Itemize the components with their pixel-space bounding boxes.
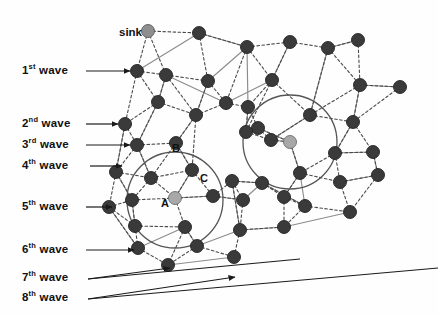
- sensor-node[interactable]: [234, 224, 247, 237]
- sensor-node[interactable]: [334, 176, 347, 189]
- sensor-node[interactable]: [119, 118, 132, 131]
- highlighted-node[interactable]: [169, 192, 182, 205]
- sensor-node[interactable]: [131, 139, 144, 152]
- dashed-edge-group: [109, 31, 400, 265]
- sensor-node[interactable]: [299, 200, 312, 213]
- dashed-link: [166, 75, 196, 115]
- sensor-node[interactable]: [284, 36, 297, 49]
- wave-5-label: 5th wave: [22, 200, 68, 212]
- sensor-node[interactable]: [190, 109, 203, 122]
- sensor-node[interactable]: [372, 169, 385, 182]
- sensor-node[interactable]: [126, 194, 139, 207]
- wave-2-suffix: nd: [29, 115, 39, 124]
- dashed-link: [199, 33, 208, 81]
- wave-diagram-figure: 1st wave2nd wave3rd wave4th wave5th wave…: [0, 0, 438, 315]
- wave-7-word: wave: [36, 271, 68, 283]
- sensor-node[interactable]: [278, 221, 291, 234]
- dashed-link: [350, 175, 378, 212]
- sensor-node[interactable]: [347, 116, 360, 129]
- network-graph-canvas: [0, 0, 438, 315]
- dashed-link: [199, 33, 247, 47]
- highlighted-node[interactable]: [284, 136, 297, 149]
- sensor-node[interactable]: [352, 34, 365, 47]
- sensor-node[interactable]: [265, 134, 278, 147]
- sensor-node[interactable]: [220, 97, 233, 110]
- solid-link: [226, 80, 272, 103]
- solid-link: [208, 47, 247, 81]
- sensor-node[interactable]: [191, 240, 204, 253]
- wave-4-ordinal: 4: [22, 159, 29, 171]
- node-a-label: A: [161, 197, 169, 209]
- sensor-node[interactable]: [242, 101, 255, 114]
- sensor-node[interactable]: [160, 69, 173, 82]
- wave-7-suffix: th: [29, 269, 36, 278]
- wave-8-suffix: th: [29, 289, 36, 298]
- solid-edge-group: [109, 33, 400, 265]
- sensor-node[interactable]: [129, 220, 142, 233]
- wave-8-word: wave: [36, 291, 68, 303]
- sink-label: sink: [119, 26, 142, 38]
- wave-5-word: wave: [36, 200, 68, 212]
- dashed-link: [148, 31, 199, 33]
- sensor-node[interactable]: [193, 27, 206, 40]
- sensor-node[interactable]: [152, 96, 165, 109]
- wave-1-word: wave: [36, 64, 68, 76]
- wave-3-label: 3rd wave: [22, 138, 69, 150]
- wave-1-suffix: st: [29, 62, 36, 71]
- wave-4-label: 4th wave: [22, 159, 68, 171]
- sensor-node[interactable]: [226, 175, 239, 188]
- wave-6-label: 6th wave: [22, 243, 68, 255]
- solid-link: [247, 47, 248, 107]
- sensor-node[interactable]: [322, 42, 335, 55]
- dashed-link: [135, 226, 185, 227]
- node-c-label: C: [200, 172, 208, 184]
- wave-1-label: 1st wave: [22, 64, 68, 76]
- wave-4-suffix: th: [29, 157, 36, 166]
- wave-2-ordinal: 2: [22, 117, 29, 129]
- dashed-link: [353, 87, 400, 122]
- node-b-label: B: [172, 142, 180, 154]
- wave-7-ordinal: 7: [22, 271, 29, 283]
- sensor-node[interactable]: [110, 166, 123, 179]
- sensor-node[interactable]: [329, 147, 342, 160]
- dashed-link: [310, 85, 360, 115]
- sensor-node[interactable]: [278, 191, 291, 204]
- wave-8-label: 8th wave: [22, 291, 68, 303]
- sensor-node[interactable]: [207, 190, 220, 203]
- wave-2-word: wave: [38, 117, 70, 129]
- sensor-node[interactable]: [162, 259, 175, 272]
- sensor-node[interactable]: [202, 75, 215, 88]
- wave-4-word: wave: [36, 159, 68, 171]
- wave-8-long-arrow: [88, 268, 438, 299]
- sensor-node-group: [103, 25, 407, 272]
- sensor-node[interactable]: [394, 81, 407, 94]
- sensor-node[interactable]: [354, 79, 367, 92]
- sensor-node[interactable]: [252, 122, 265, 135]
- wave-3-suffix: rd: [29, 136, 37, 145]
- sensor-node[interactable]: [367, 146, 380, 159]
- dashed-link: [148, 31, 166, 75]
- wave-3-word: wave: [37, 138, 69, 150]
- sensor-node[interactable]: [344, 206, 357, 219]
- sensor-node[interactable]: [179, 221, 192, 234]
- wave-3-ordinal: 3: [22, 138, 29, 150]
- sensor-node[interactable]: [304, 109, 317, 122]
- sink-node[interactable]: [142, 25, 155, 38]
- sensor-node[interactable]: [186, 164, 199, 177]
- sensor-node[interactable]: [132, 242, 145, 255]
- sensor-node[interactable]: [131, 65, 144, 78]
- sensor-node[interactable]: [228, 251, 241, 264]
- sensor-node[interactable]: [237, 194, 250, 207]
- sensor-node[interactable]: [266, 74, 279, 87]
- wave-6-suffix: th: [29, 241, 36, 250]
- dashed-link: [328, 48, 360, 85]
- sensor-node[interactable]: [241, 41, 254, 54]
- sensor-node[interactable]: [294, 167, 307, 180]
- sensor-node[interactable]: [256, 177, 269, 190]
- wave-1-ordinal: 1: [22, 64, 29, 76]
- solid-link: [284, 212, 350, 227]
- wave-6-ordinal: 6: [22, 243, 29, 255]
- sensor-node[interactable]: [240, 126, 253, 139]
- sensor-node[interactable]: [145, 172, 158, 185]
- wave-5-suffix: th: [29, 198, 36, 207]
